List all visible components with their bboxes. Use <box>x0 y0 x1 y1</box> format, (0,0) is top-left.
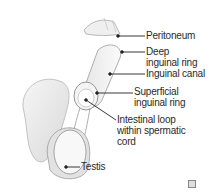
label-intestinal-loop-line3: cord <box>117 136 136 148</box>
image-info-icon[interactable] <box>188 180 196 188</box>
label-inguinal-canal: Inguinal canal <box>146 68 205 80</box>
label-testis: Testis <box>81 161 105 173</box>
intestinal-loop-shape <box>78 89 94 107</box>
label-peritoneum: Peritoneum <box>146 30 195 42</box>
hernia-diagram: Peritoneum Deep inguinal ring Inguinal c… <box>0 0 208 192</box>
label-superficial-ring-line2: inguinal ring <box>134 97 185 109</box>
